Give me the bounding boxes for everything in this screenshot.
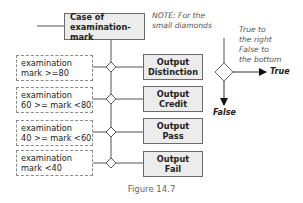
output-line1: Output	[157, 121, 189, 131]
case-box: Case ofexamination-mark	[64, 13, 145, 40]
condition-box-credit: examination60 >= mark <80	[16, 87, 93, 113]
note-text: NOTE: For thesmall diamonds	[152, 11, 212, 31]
output-box-credit: OutputCredit	[143, 86, 203, 112]
condition-line1: examination	[21, 123, 72, 133]
output-line2: Distinction	[148, 67, 198, 77]
true-label: True	[270, 67, 290, 76]
output-line2: Pass	[162, 131, 183, 141]
legend-line2: the right	[239, 35, 272, 44]
figure-caption: Figure 14.7	[0, 184, 303, 194]
condition-box-distinction: examinationmark >=80	[16, 55, 93, 81]
condition-line2: mark <40	[21, 163, 62, 173]
output-line1: Output	[157, 89, 189, 99]
output-line1: Output	[157, 154, 189, 164]
note-line2: small diamonds	[152, 21, 212, 30]
output-box-distinction: OutputDistinction	[143, 54, 203, 80]
condition-line2: 60 >= mark <80	[21, 100, 91, 110]
legend-text: True to the right False to the bottom	[239, 25, 281, 65]
false-label: False	[213, 108, 236, 117]
output-line2: Credit	[159, 99, 187, 109]
condition-box-fail: examinationmark <40	[16, 150, 93, 176]
case-box-line2: examination-mark	[70, 22, 131, 42]
condition-line1: examination	[21, 58, 72, 68]
output-line1: Output	[157, 57, 189, 67]
condition-line1: examination	[21, 90, 72, 100]
case-box-line1: Case of	[70, 12, 104, 22]
output-line2: Fail	[165, 164, 181, 174]
condition-line2: mark >=80	[21, 68, 69, 78]
condition-line1: examination	[21, 153, 72, 163]
note-line1: NOTE: For the	[152, 11, 205, 20]
output-box-pass: OutputPass	[143, 118, 203, 144]
condition-line2: 40 >= mark <60	[21, 133, 91, 143]
condition-box-pass: examination40 >= mark <60	[16, 120, 93, 146]
legend-line1: True to	[239, 25, 266, 34]
legend-line4: the bottom	[239, 55, 281, 64]
legend-line3: False to	[239, 45, 269, 54]
output-box-fail: OutputFail	[143, 151, 203, 177]
